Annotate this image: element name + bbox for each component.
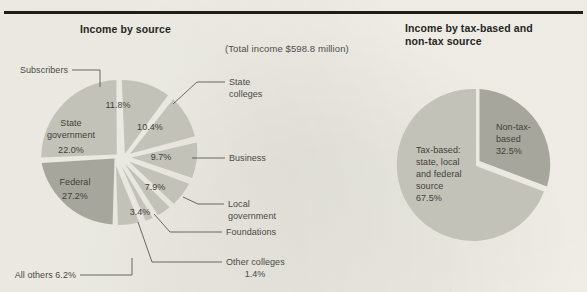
charts-canvas: 11.8% 10.4% 9.7% 7.9% 3.4% State governm…: [0, 0, 587, 292]
label-federal-pct: 27.2%: [62, 191, 88, 201]
label-business: Business: [229, 153, 266, 163]
label-local-government-line1: Local: [228, 199, 250, 209]
label-business-pct: 9.7%: [151, 152, 172, 162]
label-foundations: Foundations: [226, 227, 277, 237]
label-state-government-line1: State: [60, 118, 81, 128]
label-state-government-pct: 22.0%: [58, 145, 84, 155]
label-federal-name: Federal: [60, 177, 91, 187]
label-state-colleges-line2: colleges: [229, 89, 263, 99]
label-state-government-line2: government: [47, 130, 95, 140]
label-subscribers: Subscribers: [20, 65, 69, 75]
leader-state-colleges: [173, 82, 225, 104]
label-other-colleges: Other colleges: [226, 257, 285, 267]
label-tax-based-line1: Tax-based:: [416, 145, 461, 155]
leader-foundations: [154, 214, 222, 232]
label-local-government-line2: government: [228, 211, 276, 221]
label-tax-based-line4: source: [416, 181, 443, 191]
label-foundations-pct: 3.4%: [130, 207, 151, 217]
label-tax-based-pct: 67.5%: [416, 193, 442, 203]
label-tax-based-line2: state, local: [416, 157, 460, 167]
leader-local-government: [183, 197, 224, 204]
label-all-others: All others 6.2%: [15, 270, 76, 280]
leader-other-colleges: [138, 222, 222, 262]
label-state-colleges-line1: State: [229, 77, 250, 87]
label-other-colleges-pct: 1.4%: [245, 269, 266, 279]
label-non-tax-based-line2: based: [496, 134, 521, 144]
label-non-tax-based-pct: 32.5%: [496, 146, 522, 156]
label-local-government-pct: 7.9%: [145, 182, 166, 192]
label-subscribers-pct: 11.8%: [105, 100, 130, 110]
label-state-colleges-pct: 10.4%: [137, 122, 163, 132]
leader-all-others: [80, 258, 132, 275]
label-tax-based-line3: and federal: [416, 169, 462, 179]
label-non-tax-based-line1: Non-tax-: [496, 122, 531, 132]
